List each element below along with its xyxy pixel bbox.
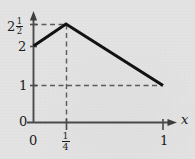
fraction-one-quarter: 1 4 bbox=[62, 131, 70, 152]
y-tick-whole-part: 2 bbox=[7, 20, 15, 33]
x-axis-arrowhead-icon bbox=[168, 119, 178, 126]
y-tick-label-1: 1 bbox=[19, 79, 27, 92]
y-tick-label-2: 2 bbox=[18, 40, 26, 53]
fraction-denominator: 4 bbox=[62, 142, 70, 152]
y-tick-label-2-and-a-half: 2 1 2 bbox=[7, 17, 23, 36]
x-tick-label-0: 0 bbox=[29, 134, 37, 147]
fraction-numerator: 1 bbox=[62, 131, 70, 142]
x-axis-label: x bbox=[181, 113, 188, 126]
y-axis-arrowhead-icon bbox=[30, 11, 37, 21]
fraction-denominator: 2 bbox=[16, 27, 23, 36]
figure-container: 2 1 2 2 1 0 0 1 4 1 x bbox=[0, 0, 195, 159]
y-tick-label-0: 0 bbox=[19, 115, 27, 128]
function-curve bbox=[34, 24, 164, 86]
x-tick-label-1: 1 bbox=[160, 134, 168, 147]
fraction-one-half: 1 2 bbox=[16, 17, 23, 36]
x-tick-label-one-quarter: 1 4 bbox=[61, 131, 70, 152]
